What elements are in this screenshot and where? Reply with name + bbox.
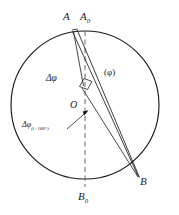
label-delta-phi-i180: Δφ(i+180°) [22, 121, 49, 132]
chord-a-b-inner [77, 30, 140, 178]
chord-a-center [74, 32, 84, 87]
label-point-a0: A0 [80, 11, 90, 25]
geometric-diagram: A A0 B B0 O Δφ (φ) Δφ(i+180°) [0, 0, 179, 215]
label-point-a: A [63, 11, 70, 22]
right-angle-marker [80, 79, 93, 90]
label-point-b: B [140, 176, 147, 187]
diagram-canvas [0, 0, 179, 215]
chord-a-b-outer [73, 32, 139, 178]
point-a-tick [72, 29, 78, 30]
label-point-b0-main: B [78, 190, 85, 202]
leader-arrow-line [67, 112, 87, 129]
main-circle [11, 31, 159, 179]
chord-o-b [82, 88, 138, 177]
label-delta-phi-i180-main: Δφ [22, 120, 31, 129]
label-delta-phi: Δφ [46, 74, 57, 84]
label-phi-paren: (φ) [104, 68, 115, 77]
label-point-b0-sub: 0 [85, 197, 88, 204]
label-point-a0-sub: 0 [87, 17, 90, 24]
label-center-o: O [70, 100, 77, 110]
label-delta-phi-i180-sub: (i+180°) [31, 126, 48, 131]
label-point-b0: B0 [78, 191, 88, 205]
label-point-a0-main: A [80, 10, 87, 22]
